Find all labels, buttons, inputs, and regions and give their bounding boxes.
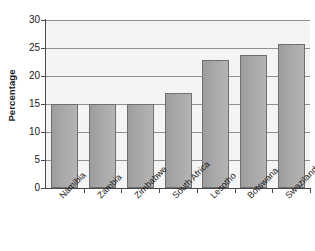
y-tick-mark-15 <box>41 104 46 105</box>
y-tick-mark-5 <box>41 160 46 161</box>
bar-chart-figure: Percentage 051015202530 NamibiaZambiaZim… <box>0 0 315 251</box>
x-tick-mark <box>159 189 160 193</box>
x-tick-mark <box>310 189 311 193</box>
bar-swaziland <box>278 44 305 188</box>
x-tick-mark <box>84 189 85 193</box>
y-tick-mark-10 <box>41 132 46 133</box>
x-tick-mark <box>121 189 122 193</box>
y-tick-mark-20 <box>41 76 46 77</box>
x-tick-mark <box>197 189 198 193</box>
y-axis-tick-labels: 051015202530 <box>22 0 44 251</box>
y-tick-mark-25 <box>41 48 46 49</box>
y-axis-title-text: Percentage <box>6 69 17 121</box>
y-tick-mark-0 <box>41 188 46 189</box>
gridline-30 <box>46 20 310 21</box>
gridline-20 <box>46 76 310 77</box>
y-tick-mark-30 <box>41 20 46 21</box>
bar-south-africa <box>165 93 192 188</box>
x-tick-mark <box>272 189 273 193</box>
plot-area <box>46 20 310 188</box>
x-tick-mark <box>235 189 236 193</box>
gridline-25 <box>46 48 310 49</box>
y-axis-title: Percentage <box>0 0 22 190</box>
bar-botswana <box>240 55 267 188</box>
